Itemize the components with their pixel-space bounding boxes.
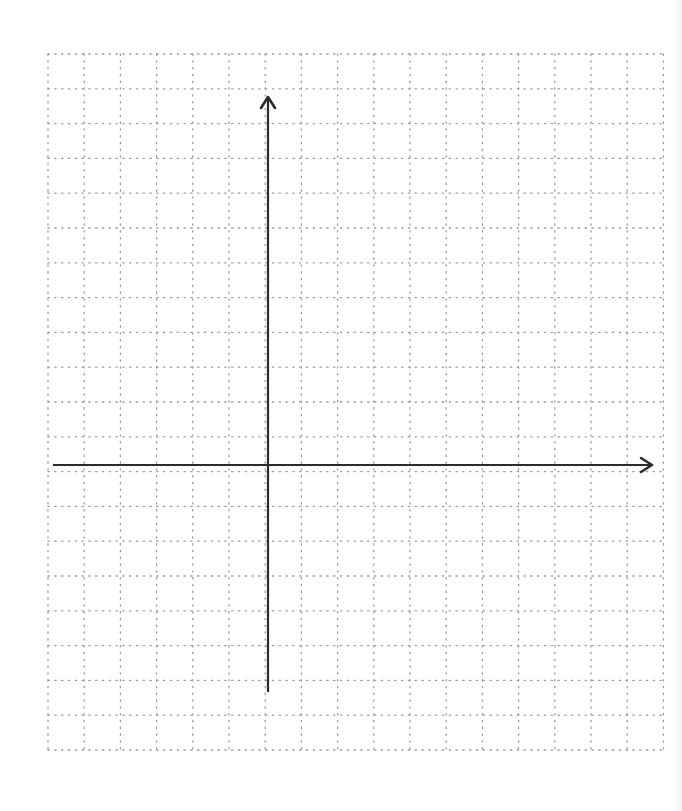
dotted-grid — [48, 54, 663, 750]
coordinate-plane — [0, 0, 682, 811]
axes — [53, 97, 652, 692]
